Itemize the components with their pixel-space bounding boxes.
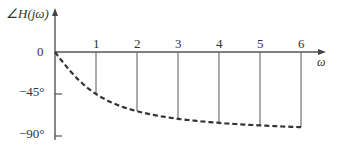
x-tick-3: 3 bbox=[175, 36, 182, 52]
x-tick-4: 4 bbox=[216, 36, 223, 52]
y-tick-minus45: −45° bbox=[19, 84, 45, 100]
x-tick-5: 5 bbox=[257, 36, 264, 52]
x-tick-2: 2 bbox=[134, 36, 141, 52]
y-axis-label: ∠H(jω) bbox=[6, 6, 49, 22]
x-tick-6: 6 bbox=[298, 36, 305, 52]
x-axis-label: ω bbox=[317, 55, 325, 70]
drop-lines bbox=[96, 52, 301, 127]
y-tick-minus90: −90° bbox=[19, 126, 45, 142]
y-tick-0: 0 bbox=[37, 44, 44, 60]
x-tick-1: 1 bbox=[93, 36, 100, 52]
phase-plot bbox=[0, 0, 339, 150]
